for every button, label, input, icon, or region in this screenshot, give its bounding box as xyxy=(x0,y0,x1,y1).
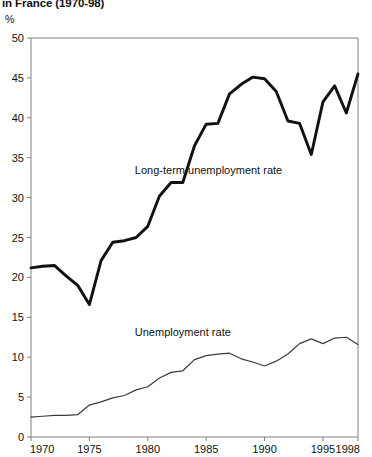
y-tick-label-25: 25 xyxy=(12,232,24,244)
line-chart-plot: 0510152025303540455019701975198019851990… xyxy=(0,0,372,457)
plot-frame xyxy=(31,38,358,437)
series-line-long-term-unemployment-rate xyxy=(31,74,358,305)
x-tick-label-1998: 1998 xyxy=(336,443,360,455)
chart-series xyxy=(31,74,358,417)
x-tick-label-1985: 1985 xyxy=(194,443,218,455)
series-label-unemployment-rate: Unemployment rate xyxy=(135,326,231,338)
y-tick-label-30: 30 xyxy=(12,192,24,204)
x-tick-label-1970: 1970 xyxy=(30,443,54,455)
y-tick-label-0: 0 xyxy=(18,431,24,443)
y-tick-label-35: 35 xyxy=(12,152,24,164)
series-label-long-term-unemployment-rate: Long-term unemployment rate xyxy=(135,164,282,176)
y-tick-label-5: 5 xyxy=(18,391,24,403)
y-tick-label-15: 15 xyxy=(12,311,24,323)
chart-annotations: Long-term unemployment rateUnemployment … xyxy=(135,164,282,339)
y-tick-label-40: 40 xyxy=(12,112,24,124)
chart-figure: in France (1970-98) % 051015202530354045… xyxy=(0,0,372,457)
x-tick-label-1995: 1995 xyxy=(311,443,335,455)
x-tick-label-1990: 1990 xyxy=(252,443,276,455)
y-tick-label-50: 50 xyxy=(12,32,24,44)
x-tick-label-1980: 1980 xyxy=(136,443,160,455)
y-tick-label-45: 45 xyxy=(12,72,24,84)
x-tick-label-1975: 1975 xyxy=(77,443,101,455)
series-line-unemployment-rate xyxy=(31,337,358,417)
chart-axes: 0510152025303540455019701975198019851990… xyxy=(12,32,360,455)
y-tick-label-10: 10 xyxy=(12,351,24,363)
y-tick-label-20: 20 xyxy=(12,271,24,283)
